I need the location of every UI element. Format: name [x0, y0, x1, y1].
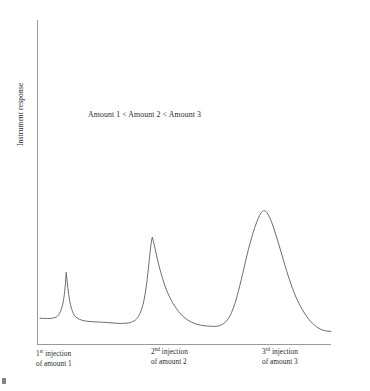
x-tick-label-2: 2nd injection of amount 2	[151, 347, 188, 367]
x-tick-1-line2: of amount 1	[36, 359, 72, 368]
x-tick-2-line2: of amount 2	[151, 357, 187, 366]
y-axis-label: Instrument response	[14, 16, 28, 146]
x-tick-2-line1: 2nd injection	[151, 347, 188, 356]
x-tick-3-line2: of amount 3	[262, 357, 298, 366]
x-tick-1-rest: injection	[43, 349, 71, 358]
chart-canvas	[0, 0, 370, 391]
x-tick-label-3: 3rd injection of amount 3	[262, 347, 298, 367]
x-tick-3-rest: injection	[270, 347, 298, 356]
x-tick-2-rest: injection	[160, 347, 188, 356]
plot-annotation: Amount 1 < Amount 2 < Amount 3	[88, 110, 201, 119]
x-tick-3-line1: 3rd injection	[262, 347, 298, 356]
chromatogram-figure: Instrument response Amount 1 < Amount 2 …	[0, 0, 370, 391]
x-tick-1-line1: 1st injection	[36, 349, 71, 358]
instrument-response-trace	[40, 211, 331, 332]
x-tick-label-1: 1st injection of amount 1	[36, 349, 72, 369]
scan-artifact-mark	[2, 378, 6, 384]
